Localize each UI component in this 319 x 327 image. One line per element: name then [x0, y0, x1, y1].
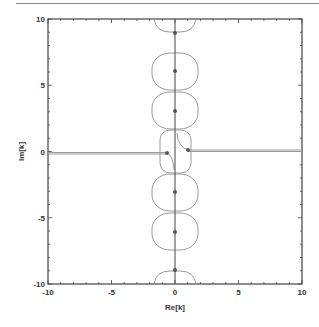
data-point [173, 230, 177, 234]
y-tick-label: 5 [41, 81, 46, 90]
y-tick-label: -10 [33, 280, 45, 289]
x-tick-labels: -10 -5 0 5 10 [42, 288, 307, 297]
y-tick-label: 0 [41, 148, 46, 157]
x-tick-label: -5 [108, 288, 116, 297]
data-points [165, 31, 190, 272]
data-point [186, 148, 190, 152]
data-point [165, 151, 169, 155]
y-axis-label: Im[k] [17, 142, 26, 161]
y-tick-labels: 10 5 0 -5 -10 [33, 15, 45, 289]
y-tick-label: -5 [38, 214, 46, 223]
y-tick-label: 10 [36, 15, 45, 24]
x-tick-label: 10 [298, 288, 307, 297]
x-tick-label: 5 [236, 288, 241, 297]
data-point [173, 190, 177, 194]
central-hyperbola-upper [177, 133, 188, 150]
data-point [173, 268, 177, 272]
data-point [173, 69, 177, 73]
x-tick-label: 0 [173, 288, 178, 297]
x-axis-label: Re[k] [165, 303, 185, 312]
central-hyperbola-lower [167, 153, 174, 170]
complex-plane-plot: -10 -5 0 5 10 10 5 0 -5 -10 Re[k] Im[k] [0, 0, 319, 327]
data-point [173, 109, 177, 113]
x-tick-label: -10 [42, 288, 54, 297]
data-point [173, 31, 177, 35]
